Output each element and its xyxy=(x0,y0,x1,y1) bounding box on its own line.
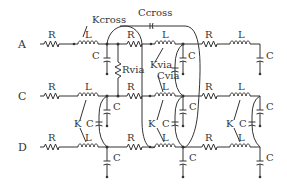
label-c-a1: C xyxy=(92,50,100,61)
rvia-resistor xyxy=(115,44,121,96)
k-coupling-marks xyxy=(80,26,240,142)
label-cvia: Cvia xyxy=(157,70,179,81)
label-l-a3: L xyxy=(238,29,245,40)
label-c-d1: C xyxy=(113,152,121,163)
row-label-c: C xyxy=(18,90,26,103)
label-ccross: Ccross xyxy=(138,7,172,18)
label-r-a2: R xyxy=(127,29,135,40)
label-l-d3: L xyxy=(238,132,245,143)
label-c-c3: C xyxy=(266,101,274,112)
label-l-d1: L xyxy=(85,132,92,143)
label-r-c3: R xyxy=(205,81,213,92)
label-kvia: Kvia xyxy=(150,59,172,70)
label-c-cd3: C xyxy=(239,118,247,129)
label-c-c1: C xyxy=(113,101,121,112)
label-r-c1: R xyxy=(48,81,56,92)
label-r-a1: R xyxy=(48,29,56,40)
label-r-d3: R xyxy=(205,132,213,143)
label-c-a3: C xyxy=(266,50,274,61)
label-c-c2: C xyxy=(189,101,197,112)
label-r-a3: R xyxy=(205,29,213,40)
label-c-cd1: C xyxy=(86,118,94,129)
label-c-d3: C xyxy=(266,152,274,163)
label-k-1: K xyxy=(74,118,82,129)
label-r-c2: R xyxy=(127,81,135,92)
label-c-a2: C xyxy=(188,50,196,61)
label-r-d1: R xyxy=(48,132,56,143)
label-l-a2: L xyxy=(162,29,169,40)
label-l-d2: L xyxy=(162,132,169,143)
label-k-2: K xyxy=(148,118,156,129)
label-l-a1: L xyxy=(85,29,92,40)
label-l-c3: L xyxy=(238,81,245,92)
label-l-c1: L xyxy=(85,81,92,92)
label-c-cd2: C xyxy=(162,118,170,129)
label-rvia: Rvia xyxy=(122,64,144,75)
label-r-d2: R xyxy=(127,132,135,143)
label-c-d2: C xyxy=(189,152,197,163)
circuit-diagram: A C D xyxy=(0,0,287,189)
row-label-a: A xyxy=(17,38,27,51)
row-d-line xyxy=(40,144,264,178)
label-kcross: Kcross xyxy=(92,14,126,25)
label-k-3: K xyxy=(226,118,234,129)
row-label-d: D xyxy=(18,141,27,154)
label-l-c2: L xyxy=(162,81,169,92)
